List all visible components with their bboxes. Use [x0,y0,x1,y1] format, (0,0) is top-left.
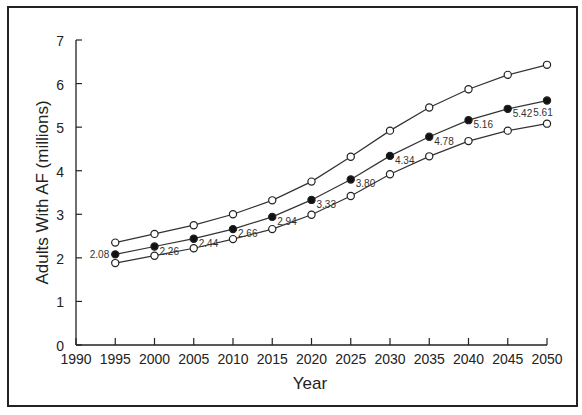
filled-point-marker [269,213,276,220]
filled-point-marker [347,176,354,183]
open-point-marker [112,239,119,246]
y-tick-label: 2 [56,251,64,267]
open-point-marker [543,120,550,127]
open-point-marker [269,226,276,233]
x-tick-label: 1995 [100,351,131,367]
open-point-marker [308,211,315,218]
open-point-marker [426,153,433,160]
filled-point-marker [504,105,511,112]
x-tick-label: 2000 [139,351,170,367]
open-point-marker [229,236,236,243]
open-point-marker [504,71,511,78]
x-tick-label: 2005 [178,351,209,367]
open-point-marker [190,222,197,229]
x-tick-label: 2010 [217,351,248,367]
x-tick-label: 2045 [492,351,523,367]
filled-point-marker [543,97,550,104]
y-axis-title: Adults With AF (millions) [33,100,52,284]
open-point-marker [112,259,119,266]
open-point-marker [386,171,393,178]
filled-point-marker [151,243,158,250]
open-point-marker [347,153,354,160]
filled-point-marker [190,235,197,242]
x-tick-label: 2020 [296,351,327,367]
filled-point-marker [112,251,119,258]
open-point-marker [504,127,511,134]
open-point-marker [151,252,158,259]
data-label: 5.42 [513,108,533,119]
y-tick-label: 4 [56,164,64,180]
y-tick-label: 7 [56,33,64,49]
x-tick-label: 2015 [257,351,288,367]
y-tick-label: 1 [56,294,64,310]
x-tick-label: 2050 [531,351,562,367]
open-point-marker [426,104,433,111]
series-line-0 [115,65,547,243]
line-chart: 0123456719901995200020052010201520202025… [0,0,582,415]
y-tick-label: 3 [56,207,64,223]
open-point-marker [543,61,550,68]
open-point-marker [347,192,354,199]
x-tick-label: 2030 [374,351,405,367]
open-point-marker [308,178,315,185]
filled-point-marker [229,226,236,233]
y-tick-label: 5 [56,120,64,136]
filled-point-marker [386,152,393,159]
y-tick-label: 6 [56,77,64,93]
x-axis-title: Year [293,374,328,393]
open-point-marker [190,245,197,252]
data-label: 2.08 [90,249,110,260]
x-tick-label: 2040 [453,351,484,367]
x-tick-label: 1990 [60,351,91,367]
data-label: 5.61 [533,107,553,118]
open-point-marker [465,86,472,93]
open-point-marker [465,137,472,144]
series-line-2 [115,124,547,263]
open-point-marker [386,127,393,134]
open-point-marker [151,230,158,237]
open-point-marker [229,211,236,218]
data-label: 5.16 [474,119,494,130]
x-tick-label: 2035 [414,351,445,367]
x-tick-label: 2025 [335,351,366,367]
open-point-marker [269,197,276,204]
filled-point-marker [465,117,472,124]
filled-point-marker [426,133,433,140]
data-label: 4.78 [434,136,454,147]
filled-point-marker [308,196,315,203]
